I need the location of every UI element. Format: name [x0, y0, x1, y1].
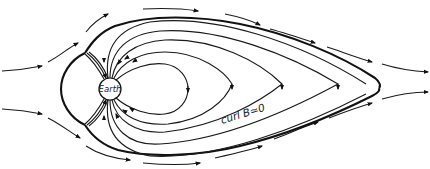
- curl-annotation: curl B≃0: [219, 101, 266, 126]
- earth: Earth: [99, 78, 122, 100]
- closed-dipole-field-lines: [107, 21, 366, 157]
- flow-line-top-2: [143, 9, 198, 11]
- magnetopause-nose: [61, 53, 85, 125]
- field-line-3: [112, 40, 282, 132]
- solar-wind-flow-lines: [2, 9, 428, 165]
- flow-line-upstream-bottom: [2, 109, 42, 114]
- flow-line-bottom-6: [382, 92, 428, 99]
- field-line-2: [114, 52, 232, 124]
- flow-line-bottom-4: [274, 122, 318, 139]
- earth-label: Earth: [99, 84, 122, 94]
- flow-line-bottom-1: [86, 146, 130, 160]
- flow-line-upstream-bottom-2: [48, 118, 80, 138]
- flow-line-upstream-top: [2, 66, 42, 71]
- magnetosphere-diagram: Earth curl B≃0: [0, 0, 430, 169]
- flow-line-top-3: [225, 14, 260, 25]
- flow-line-top-6: [382, 64, 428, 72]
- diagram-canvas: Earth curl B≃0: [0, 0, 430, 169]
- flow-line-top-1: [86, 14, 108, 32]
- flow-line-bottom-2: [143, 163, 200, 165]
- flow-line-upstream-top-2: [48, 43, 78, 62]
- field-line-1: [116, 64, 188, 115]
- flow-line-bottom-3: [215, 146, 262, 158]
